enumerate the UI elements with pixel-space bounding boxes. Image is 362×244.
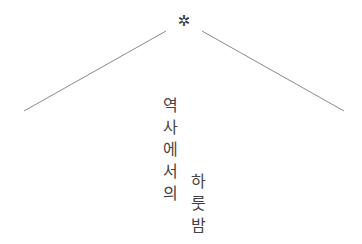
roof-lines-decoration xyxy=(0,0,362,244)
right-roof-line xyxy=(202,31,344,111)
title-char: 서 xyxy=(163,161,178,183)
left-roof-line xyxy=(24,31,166,111)
title-char: 룻 xyxy=(191,193,206,215)
asterisk-icon: ✲ xyxy=(176,12,192,30)
title-char: 역 xyxy=(163,95,178,117)
title-column-2: 하 룻 밤 xyxy=(188,171,208,237)
book-cover: ✲ 역 사 에 서 의 하 룻 밤 xyxy=(0,0,362,244)
title-char: 의 xyxy=(163,183,178,205)
title-char: 밤 xyxy=(191,215,206,237)
title-char: 사 xyxy=(163,117,178,139)
title-char: 에 xyxy=(163,139,178,161)
title-char: 하 xyxy=(191,171,206,193)
title-column-1: 역 사 에 서 의 xyxy=(160,95,180,205)
